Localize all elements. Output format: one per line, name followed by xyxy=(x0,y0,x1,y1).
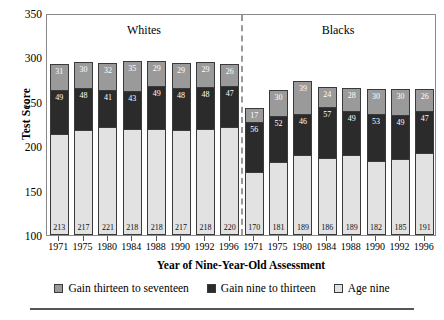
segment-value-label: 24 xyxy=(319,90,336,99)
bar-blacks-1990[interactable]: 3053182 xyxy=(367,88,386,235)
legend-item-0[interactable]: Gain thirteen to seventeen xyxy=(54,282,188,294)
x-axis-tick-labels: 1971197519801984198819901992199619711975… xyxy=(46,241,436,257)
segment-value-label: 181 xyxy=(270,223,287,232)
legend-swatch-icon xyxy=(334,284,343,293)
segment-value-label: 30 xyxy=(368,92,385,101)
segment-age-nine: 220 xyxy=(220,128,239,235)
segment-value-label: 218 xyxy=(124,223,141,232)
segment-gain-thirteen-to-seventeen: 29 xyxy=(196,62,215,88)
segment-value-label: 49 xyxy=(51,93,68,102)
segment-age-nine: 189 xyxy=(293,156,312,235)
segment-age-nine: 181 xyxy=(269,163,288,235)
bar-blacks-1988[interactable]: 2849189 xyxy=(342,88,361,235)
legend-item-2[interactable]: Age nine xyxy=(334,282,390,294)
y-tick-label: 200 xyxy=(12,141,42,153)
segment-gain-nine-to-thirteen: 46 xyxy=(293,115,312,156)
segment-value-label: 29 xyxy=(197,65,214,74)
segment-gain-thirteen-to-seventeen: 26 xyxy=(415,89,434,112)
bar-blacks-1980[interactable]: 3946189 xyxy=(293,81,312,236)
segment-value-label: 52 xyxy=(270,119,287,128)
segment-gain-nine-to-thirteen: 48 xyxy=(196,88,215,131)
segment-gain-nine-to-thirteen: 56 xyxy=(245,123,264,173)
segment-value-label: 49 xyxy=(148,89,165,98)
segment-gain-thirteen-to-seventeen: 29 xyxy=(172,63,191,89)
segment-age-nine: 213 xyxy=(50,135,69,235)
bar-blacks-1975[interactable]: 3052181 xyxy=(269,90,288,235)
y-tick-label: 150 xyxy=(12,186,42,198)
segment-value-label: 49 xyxy=(343,114,360,123)
bar-blacks-1996[interactable]: 2647191 xyxy=(415,89,434,235)
segment-value-label: 39 xyxy=(294,84,311,93)
segment-value-label: 186 xyxy=(319,223,336,232)
segment-value-label: 47 xyxy=(221,89,238,98)
plot-area: Whites Blacks 31492133048217324122135432… xyxy=(46,14,436,236)
legend-label: Gain thirteen to seventeen xyxy=(68,282,188,294)
bar-whites-1980[interactable]: 3241221 xyxy=(98,63,117,235)
segment-age-nine: 221 xyxy=(98,128,117,235)
bar-blacks-1971[interactable]: 1756170 xyxy=(245,108,264,235)
segment-value-label: 30 xyxy=(75,65,92,74)
segment-value-label: 217 xyxy=(75,223,92,232)
segment-gain-thirteen-to-seventeen: 30 xyxy=(367,89,386,116)
bar-whites-1984[interactable]: 3543218 xyxy=(123,61,142,235)
segment-value-label: 189 xyxy=(294,223,311,232)
bar-whites-1988[interactable]: 2949218 xyxy=(147,61,166,235)
segment-value-label: 213 xyxy=(51,223,68,232)
segment-gain-nine-to-thirteen: 49 xyxy=(147,87,166,131)
segment-value-label: 29 xyxy=(148,64,165,73)
segment-gain-thirteen-to-seventeen: 32 xyxy=(98,63,117,91)
segment-age-nine: 182 xyxy=(367,162,386,235)
segment-age-nine: 189 xyxy=(342,156,361,235)
bar-whites-1992[interactable]: 2948218 xyxy=(196,62,215,235)
segment-value-label: 57 xyxy=(319,110,336,119)
y-tick-label: 100 xyxy=(12,230,42,242)
legend-item-1[interactable]: Gain nine to thirteen xyxy=(207,282,316,294)
segment-age-nine: 218 xyxy=(123,130,142,235)
segment-age-nine: 170 xyxy=(245,173,264,235)
segment-gain-nine-to-thirteen: 49 xyxy=(342,112,361,156)
segment-value-label: 30 xyxy=(392,92,409,101)
segment-value-label: 218 xyxy=(197,223,214,232)
segment-gain-thirteen-to-seventeen: 24 xyxy=(318,87,337,108)
segment-gain-nine-to-thirteen: 43 xyxy=(123,92,142,130)
segment-value-label: 26 xyxy=(221,67,238,76)
bar-whites-1971[interactable]: 3149213 xyxy=(50,64,69,235)
segment-value-label: 35 xyxy=(124,64,141,73)
y-axis-tick-labels: 100150200250300350 xyxy=(12,14,42,236)
y-tick-label: 350 xyxy=(12,8,42,20)
segment-age-nine: 218 xyxy=(196,130,215,235)
segment-value-label: 30 xyxy=(270,93,287,102)
segment-gain-thirteen-to-seventeen: 35 xyxy=(123,61,142,92)
legend-swatch-icon xyxy=(207,284,216,293)
segment-value-label: 48 xyxy=(75,91,92,100)
chart-legend: Gain thirteen to seventeenGain nine to t… xyxy=(0,282,444,294)
bar-whites-1996[interactable]: 2647220 xyxy=(220,64,239,235)
segment-age-nine: 191 xyxy=(415,154,434,235)
segment-value-label: 221 xyxy=(99,223,116,232)
segment-gain-nine-to-thirteen: 57 xyxy=(318,108,337,159)
segment-value-label: 32 xyxy=(99,66,116,75)
bar-blacks-1984[interactable]: 2457186 xyxy=(318,87,337,235)
segment-value-label: 53 xyxy=(368,117,385,126)
segment-gain-thirteen-to-seventeen: 17 xyxy=(245,108,264,123)
bar-blacks-1992[interactable]: 3049185 xyxy=(391,89,410,235)
segment-value-label: 48 xyxy=(197,90,214,99)
segment-value-label: 218 xyxy=(148,223,165,232)
segment-gain-nine-to-thirteen: 49 xyxy=(50,91,69,135)
segment-value-label: 49 xyxy=(392,118,409,127)
segment-gain-thirteen-to-seventeen: 30 xyxy=(74,62,93,89)
segment-value-label: 31 xyxy=(51,67,68,76)
bar-whites-1990[interactable]: 2948217 xyxy=(172,63,191,235)
segment-value-label: 182 xyxy=(368,223,385,232)
segment-value-label: 189 xyxy=(343,223,360,232)
segment-age-nine: 217 xyxy=(74,131,93,235)
segment-value-label: 17 xyxy=(246,111,263,120)
segment-gain-thirteen-to-seventeen: 39 xyxy=(293,81,312,116)
segment-gain-thirteen-to-seventeen: 31 xyxy=(50,64,69,92)
segment-gain-nine-to-thirteen: 52 xyxy=(269,117,288,163)
bar-whites-1975[interactable]: 3048217 xyxy=(74,62,93,235)
footer-rule xyxy=(30,308,414,310)
segment-value-label: 48 xyxy=(173,91,190,100)
segment-value-label: 217 xyxy=(173,223,190,232)
segment-value-label: 28 xyxy=(343,91,360,100)
